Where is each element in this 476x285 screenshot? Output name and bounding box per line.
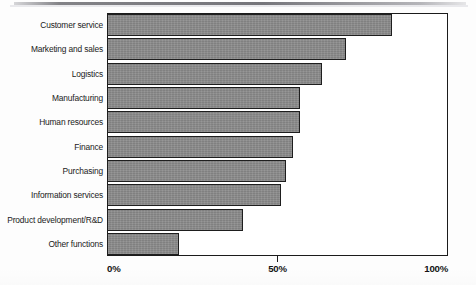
bar <box>107 136 293 158</box>
bar-row <box>107 63 448 85</box>
category-label: Other functions <box>0 239 103 249</box>
category-label: Human resources <box>0 117 103 127</box>
bar-row <box>107 136 448 158</box>
category-label: Manufacturing <box>0 93 103 103</box>
category-label: Purchasing <box>0 166 103 176</box>
x-axis-tick-label: 100% <box>424 263 448 274</box>
category-label: Information services <box>0 190 103 200</box>
bars-layer <box>107 13 448 256</box>
bar-row <box>107 233 448 255</box>
bar <box>107 87 300 109</box>
x-axis-tick-label: 0% <box>107 263 120 274</box>
x-axis-tick <box>277 256 278 262</box>
bar-row <box>107 160 448 182</box>
bar-row <box>107 209 448 231</box>
category-label: Finance <box>0 142 103 152</box>
category-label: Customer service <box>0 20 103 30</box>
bar <box>107 63 322 85</box>
category-axis-labels: Customer serviceMarketing and salesLogis… <box>0 13 103 256</box>
bar-row <box>107 87 448 109</box>
category-label: Product development/R&D <box>0 215 103 225</box>
bar <box>107 233 179 255</box>
bar-chart-figure: Customer serviceMarketing and salesLogis… <box>0 0 476 285</box>
bar-row <box>107 111 448 133</box>
bar <box>107 38 346 60</box>
bar-row <box>107 184 448 206</box>
category-label: Marketing and sales <box>0 44 103 54</box>
bar-row <box>107 14 448 36</box>
bar <box>107 184 281 206</box>
bar <box>107 160 286 182</box>
bar <box>107 209 243 231</box>
scan-artifact-line-secondary <box>10 5 468 7</box>
category-label: Logistics <box>0 69 103 79</box>
bar <box>107 111 300 133</box>
x-axis-tick-label: 50% <box>268 263 287 274</box>
paper-texture <box>0 267 476 285</box>
bar <box>107 14 392 36</box>
bar-row <box>107 38 448 60</box>
